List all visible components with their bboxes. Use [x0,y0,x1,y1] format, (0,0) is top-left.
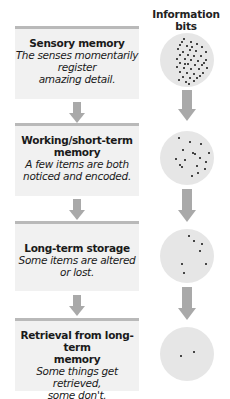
stage-sensory-memory: Sensory memory The senses momentarily re… [15,26,139,99]
stage-retrieval: Retrieval from long-term memory Some thi… [15,318,139,391]
down-arrow-icon [69,102,85,124]
information-bits-circle-4 [160,327,214,381]
stage-desc-line: some don't. [15,389,139,399]
down-arrow-icon [69,295,85,317]
down-arrow-icon [178,109,196,121]
down-arrow-shaft [182,90,192,110]
stage-long-term-storage: Long-term storage Some items are altered… [15,221,139,291]
information-bits-circle-1 [160,33,214,87]
stage-desc-line: A few items are both [15,158,139,170]
stage-desc-line: amazing detail. [15,73,139,85]
stage-desc-line: Some things get [15,365,139,377]
stage-desc-line: or lost. [15,266,139,278]
stage-title: Long-term storage [15,242,139,254]
down-arrow-icon [178,210,196,222]
down-arrow-icon [178,308,196,320]
down-arrow-icon [69,199,85,221]
stage-desc-line: Some items are altered [15,254,139,266]
information-bits-header: Information bits [142,8,230,32]
information-bits-circle-3 [160,229,214,283]
stage-title: memory [15,146,139,158]
stage-working-memory: Working/short-term memory A few items ar… [15,123,139,196]
stage-title: Sensory memory [15,37,139,49]
stage-title: memory [15,353,139,365]
stage-desc-line: retrieved, [15,377,139,389]
stage-title: Retrieval from long-term [15,329,139,353]
stage-desc-line: noticed and encoded. [15,170,139,182]
stage-desc-line: register [15,61,139,73]
down-arrow-shaft [182,287,192,309]
stage-title: Working/short-term [15,134,139,146]
stage-desc-line: The senses momentarily [15,49,139,61]
down-arrow-shaft [182,189,192,211]
information-bits-circle-2 [160,131,214,185]
